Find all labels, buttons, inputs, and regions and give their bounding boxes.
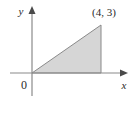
x-axis-arrowhead-icon: [120, 70, 128, 77]
origin-label: 0: [21, 78, 27, 92]
apex-point-label: (4, 3): [92, 6, 116, 19]
shaded-triangle-region: [32, 25, 101, 73]
x-axis-label: x: [121, 79, 127, 91]
y-axis-arrowhead-icon: [29, 6, 36, 14]
y-axis-label: y: [18, 5, 24, 17]
coordinate-plane-diagram: y x 0 (4, 3): [0, 0, 138, 118]
figure-container: y x 0 (4, 3): [0, 0, 138, 118]
